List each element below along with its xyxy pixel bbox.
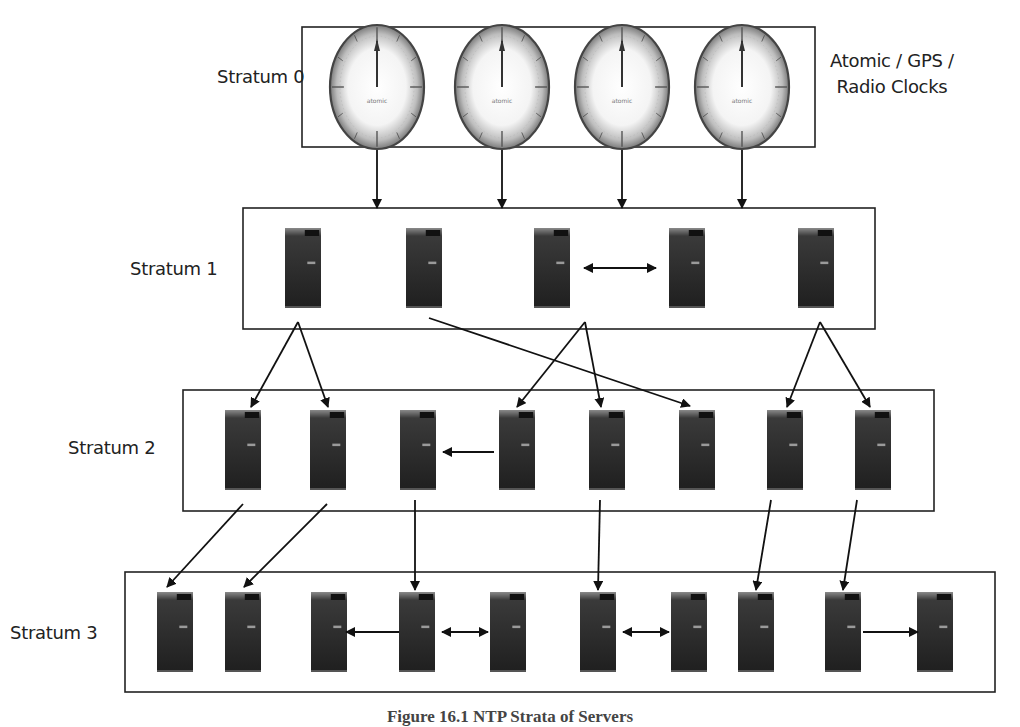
server-tower-icon: [798, 228, 834, 308]
sync-arrow: [167, 504, 243, 587]
server-tower-icon: [399, 592, 435, 672]
sync-arrow: [517, 322, 585, 407]
server-tower-icon: [855, 410, 891, 490]
sync-arrow: [298, 322, 328, 407]
server-tower-icon: [589, 410, 625, 490]
server-tower-icon: [406, 228, 442, 308]
figure-caption: Figure 16.1 NTP Strata of Servers: [0, 707, 1020, 727]
sync-arrow: [244, 504, 327, 587]
svg-text:atomic: atomic: [367, 97, 388, 104]
sync-arrow: [598, 500, 600, 590]
server-tower-icon: [310, 410, 346, 490]
stratum-nodes: atomicatomicatomicatomic: [157, 25, 953, 672]
server-tower-icon: [534, 228, 570, 308]
server-tower-icon: [738, 592, 774, 672]
server-tower-icon: [311, 592, 347, 672]
server-tower-icon: [400, 410, 436, 490]
sync-arrow: [429, 318, 690, 406]
server-tower-icon: [490, 592, 526, 672]
atomic-clock-icon: atomic: [455, 25, 549, 149]
server-tower-icon: [157, 592, 193, 672]
server-tower-icon: [225, 410, 261, 490]
atomic-clock-icon: atomic: [575, 25, 669, 149]
server-tower-icon: [669, 228, 705, 308]
sync-arrow: [756, 500, 771, 590]
sync-arrow: [251, 322, 298, 407]
clock-sources-note-line1: Atomic / GPS /: [830, 48, 954, 74]
sync-arrow: [585, 322, 601, 407]
server-tower-icon: [767, 410, 803, 490]
svg-text:atomic: atomic: [612, 97, 633, 104]
server-tower-icon: [917, 592, 953, 672]
server-tower-icon: [679, 410, 715, 490]
server-tower-icon: [825, 592, 861, 672]
server-tower-icon: [225, 592, 261, 672]
sync-arrows: [167, 150, 918, 632]
sync-arrow: [787, 322, 820, 407]
svg-text:atomic: atomic: [492, 97, 513, 104]
svg-text:atomic: atomic: [732, 97, 753, 104]
sync-arrow: [843, 500, 857, 590]
server-tower-icon: [285, 228, 321, 308]
clock-sources-note-line2: Radio Clocks: [830, 74, 954, 100]
stratum-1-label: Stratum 1: [130, 258, 217, 279]
server-tower-icon: [671, 592, 707, 672]
sync-arrow: [820, 322, 870, 407]
stratum-0-label: Stratum 0: [217, 66, 304, 87]
clock-sources-note: Atomic / GPS / Radio Clocks: [830, 48, 954, 100]
atomic-clock-icon: atomic: [695, 25, 789, 149]
atomic-clock-icon: atomic: [330, 25, 424, 149]
stratum-3-label: Stratum 3: [10, 622, 97, 643]
stratum-2-box: [183, 390, 934, 511]
server-tower-icon: [499, 410, 535, 490]
server-tower-icon: [580, 592, 616, 672]
stratum-2-label: Stratum 2: [68, 437, 155, 458]
